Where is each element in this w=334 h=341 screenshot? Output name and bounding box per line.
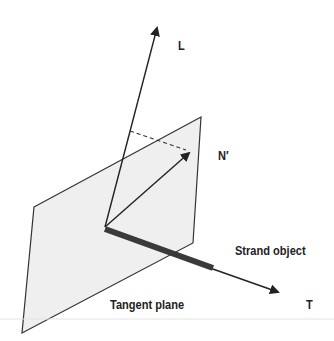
label-T: T xyxy=(306,297,313,312)
tangent-vector-arrow xyxy=(210,268,278,292)
diagram-canvas xyxy=(0,0,334,341)
label-strand-object: Strand object xyxy=(235,243,306,258)
tangent-plane-diagram: L N′ Strand object Tangent plane T xyxy=(0,0,334,341)
label-N-prime: N′ xyxy=(218,148,229,163)
label-tangent-plane: Tangent plane xyxy=(110,297,184,312)
label-L: L xyxy=(178,38,185,53)
